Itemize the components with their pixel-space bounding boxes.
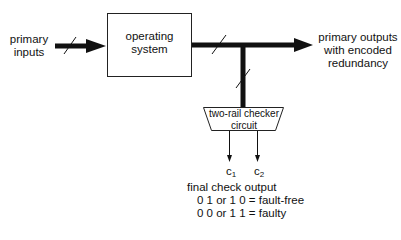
system-label-line-1: operating — [108, 30, 191, 43]
operating-system-label: operating system — [108, 30, 191, 56]
c1-subscript: 1 — [232, 170, 236, 179]
final-check-output-block: final check output 0 1 or 1 0 = fault-fr… — [187, 181, 304, 220]
c1-label: c1 — [223, 165, 239, 181]
primary-outputs-label: primary outputs with encoded redundancy — [316, 31, 400, 70]
primary-inputs-label: primary inputs — [6, 33, 52, 59]
inputs-label-line-1: primary — [6, 33, 52, 46]
c2-label: c2 — [251, 165, 267, 181]
checker-label-line-2: circuit — [206, 120, 282, 132]
checker-label-line-1: two-rail checker — [206, 108, 282, 120]
c1-arrow — [227, 131, 232, 162]
checker-branch-bus — [236, 45, 250, 107]
c2-subscript: 2 — [260, 170, 264, 179]
outputs-label-line-1: primary outputs — [316, 31, 400, 44]
rule-fault-free: 0 1 or 1 0 = fault-free — [187, 194, 304, 207]
input-bus-arrow — [55, 37, 106, 54]
outputs-label-line-2: with encoded — [316, 44, 400, 57]
system-label-line-2: system — [108, 43, 191, 56]
rule-faulty: 0 0 or 1 1 = faulty — [187, 207, 304, 220]
c2-arrow — [255, 131, 260, 162]
inputs-label-line-2: inputs — [6, 46, 52, 59]
final-check-title: final check output — [187, 181, 304, 194]
outputs-label-line-3: redundancy — [316, 57, 400, 70]
output-bus-arrow — [192, 35, 313, 54]
two-rail-checker-label: two-rail checker circuit — [206, 108, 282, 131]
